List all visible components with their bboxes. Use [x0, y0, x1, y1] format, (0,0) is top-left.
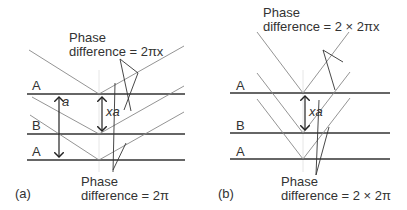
bottom-annotation-line2: difference = 2π: [81, 189, 169, 203]
incident-ray: [257, 73, 303, 133]
bottom-annotation-line2: difference = 2 × 2π: [281, 189, 391, 203]
bottom-annotation-line1: Phase: [281, 175, 318, 189]
plane-label-b: B: [32, 119, 41, 133]
spacing-label: a: [62, 95, 69, 109]
plane-label-a-bottom: A: [236, 145, 245, 159]
offset-label: xa: [309, 105, 323, 119]
reflected-ray: [303, 72, 350, 133]
plane-label-a-top: A: [32, 79, 41, 93]
top-annotation-line2: difference = 2πx: [69, 45, 163, 59]
top-annotation-line2: difference = 2 × 2πx: [263, 20, 379, 34]
incident-ray: [257, 99, 303, 159]
reflected-ray: [99, 112, 184, 160]
reflected-ray: [303, 32, 349, 93]
plane-label-a-bottom: A: [32, 145, 41, 159]
panel-caption: (a): [15, 187, 31, 201]
panel-caption: (b): [218, 187, 234, 201]
plane-label-a-top: A: [236, 79, 245, 93]
plane-label-b: B: [236, 119, 245, 133]
top-annotation-line1: Phase: [69, 31, 106, 45]
top-annotation-line1: Phase: [263, 6, 300, 20]
bottom-annotation-line1: Phase: [81, 175, 118, 189]
offset-label: xa: [106, 105, 120, 119]
incident-ray: [257, 32, 303, 93]
